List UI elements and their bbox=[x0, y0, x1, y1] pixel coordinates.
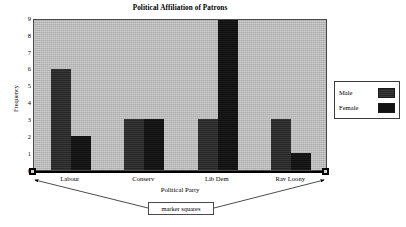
chart-legend: MaleFemale bbox=[334, 81, 400, 119]
y-tick-label: 8 bbox=[20, 33, 31, 39]
x-tick-label-lib-dem: Lib Dem bbox=[180, 174, 254, 183]
annotation-label: marker squares bbox=[149, 203, 213, 214]
bar-rav-loony-male bbox=[271, 119, 291, 170]
y-tick-label: 3 bbox=[20, 117, 31, 123]
bar-labour-female bbox=[71, 136, 91, 170]
x-axis-label: Political Party bbox=[33, 186, 327, 193]
legend-label-male: Male bbox=[339, 88, 353, 98]
y-axis-label: Frequency bbox=[12, 69, 19, 129]
female-swatch bbox=[378, 103, 395, 113]
chart-title: Political Affiliation of Patrons bbox=[33, 4, 327, 12]
bar-labour-male bbox=[51, 69, 71, 170]
x-tick-label-rav-loony: Rav Loony bbox=[254, 174, 328, 183]
bar-conserv-female bbox=[144, 119, 164, 170]
bar-conserv-male bbox=[124, 119, 144, 170]
male-swatch bbox=[378, 88, 395, 98]
y-axis-ticks: 0123456789 bbox=[20, 19, 31, 171]
legend-entry-female[interactable]: Female bbox=[339, 102, 397, 114]
y-tick-label: 1 bbox=[20, 151, 31, 157]
bar-rav-loony-female bbox=[291, 153, 311, 170]
axis-end-marker-square bbox=[322, 168, 329, 175]
y-tick-label: 9 bbox=[20, 16, 31, 22]
y-tick-label: 2 bbox=[20, 134, 31, 140]
y-tick-label: 7 bbox=[20, 50, 31, 56]
legend-label-female: Female bbox=[339, 103, 358, 113]
y-tick-label: 6 bbox=[20, 66, 31, 72]
axis-origin-marker-square bbox=[29, 168, 36, 175]
x-tick-label-conserv: Conserv bbox=[107, 174, 181, 183]
legend-entry-male[interactable]: Male bbox=[339, 87, 397, 99]
chart-figure: Political Affiliation of Patrons Frequen… bbox=[0, 0, 406, 227]
plot-area bbox=[33, 19, 327, 171]
x-axis-ticks: LabourConservLib DemRav Loony bbox=[33, 174, 327, 186]
y-tick-label: 4 bbox=[20, 100, 31, 106]
bar-lib-dem-male bbox=[198, 119, 218, 170]
y-tick-label: 5 bbox=[20, 83, 31, 89]
x-axis-line bbox=[33, 171, 327, 173]
annotation-callout-box: marker squares bbox=[148, 202, 214, 215]
x-tick-label-labour: Labour bbox=[33, 174, 107, 183]
bar-lib-dem-female bbox=[218, 19, 238, 170]
